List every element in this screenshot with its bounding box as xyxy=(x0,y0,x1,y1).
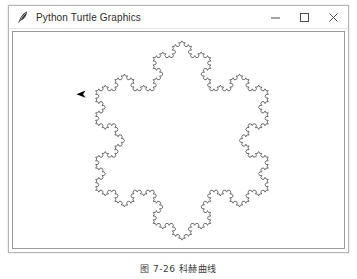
figure-caption: 图 7-26 科赫曲线 xyxy=(0,262,357,275)
maximize-icon xyxy=(299,12,310,23)
window-title: Python Turtle Graphics xyxy=(36,6,261,29)
turtle-canvas-area[interactable] xyxy=(12,31,345,249)
feather-pen-icon xyxy=(16,10,30,24)
koch-snowflake-drawing xyxy=(13,32,344,248)
window-titlebar[interactable]: Python Turtle Graphics xyxy=(9,6,348,29)
close-button[interactable] xyxy=(319,6,348,28)
close-icon xyxy=(328,12,339,23)
turtle-graphics-window: Python Turtle Graphics xyxy=(8,5,349,253)
minimize-icon xyxy=(270,12,281,23)
maximize-button[interactable] xyxy=(290,6,319,28)
minimize-button[interactable] xyxy=(261,6,290,28)
koch-curve-path xyxy=(96,41,269,240)
turtle-cursor-icon xyxy=(76,91,85,98)
